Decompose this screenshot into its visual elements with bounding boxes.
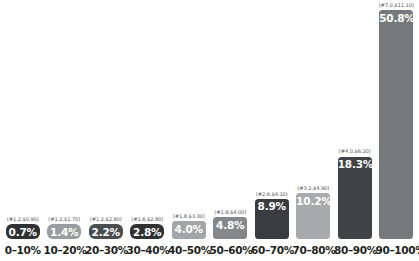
bar-value-label: 18.3%	[338, 159, 372, 170]
x-axis-tick-label: 20–30%	[85, 244, 127, 256]
bar-annotation: (#1.2,$1.70)	[48, 217, 80, 222]
bar[interactable]: 8.9%	[255, 199, 289, 239]
bar[interactable]: 18.3%	[338, 157, 372, 240]
bar-annotation: (#1.8,$4.00)	[214, 210, 246, 215]
x-axis-tick-label: 0–10%	[2, 244, 44, 256]
x-axis-tick-label: 30–40%	[127, 244, 169, 256]
bar-group[interactable]: (#1.2,$1.70) 1.4%	[44, 0, 86, 239]
bar-annotation: (#3.2,$4.90)	[297, 186, 329, 191]
bar-group[interactable]: (#4.0,$6.20) 18.3%	[334, 0, 376, 239]
bar-annotation: (#4.0,$6.20)	[339, 149, 371, 154]
bar-value-label: 1.4%	[47, 227, 81, 238]
bar-annotation: (#1.6,$2.80)	[131, 217, 163, 222]
bar-value-label: 4.8%	[213, 220, 247, 231]
bar[interactable]: 10.2%	[296, 193, 330, 239]
bar-group[interactable]: (#1.8,$3.30) 4.0%	[168, 0, 210, 239]
x-axis-tick-label: 90–100%	[376, 244, 418, 256]
bar-annotation: (#2.6,$4.10)	[256, 192, 288, 197]
x-axis-tick-label: 50–60%	[210, 244, 252, 256]
bar-annotation: (#1.8,$3.30)	[173, 214, 205, 219]
bar-group[interactable]: (#3.2,$4.90) 10.2%	[293, 0, 335, 239]
x-axis-tick-label: 60–70%	[251, 244, 293, 256]
bar[interactable]: 4.8%	[213, 217, 247, 239]
bar-chart: (#1.2,$0.90) 0.7% (#1.2,$1.70) 1.4% (#1.…	[0, 0, 419, 261]
bar-value-label: 2.8%	[130, 227, 164, 238]
bar-annotation: (#7.0,$11.10)	[379, 3, 414, 8]
bar-annotation: (#1.2,$0.90)	[7, 217, 39, 222]
x-axis-tick-labels: 0–10% 10–20% 20–30% 30–40% 40–50% 50–60%…	[0, 239, 419, 261]
bar[interactable]: 1.4%	[47, 224, 81, 239]
bar-value-label: 8.9%	[255, 201, 289, 212]
bar-value-label: 4.0%	[172, 224, 206, 235]
bar-annotation: (#1.2,$2.80)	[90, 217, 122, 222]
bar[interactable]: 0.7%	[6, 224, 40, 239]
x-axis-tick-label: 80–90%	[334, 244, 376, 256]
bar-group[interactable]: (#1.8,$4.00) 4.8%	[210, 0, 252, 239]
bar-value-label: 10.2%	[296, 196, 330, 207]
bar-group[interactable]: (#1.2,$0.90) 0.7%	[2, 0, 44, 239]
chart-plot-area: (#1.2,$0.90) 0.7% (#1.2,$1.70) 1.4% (#1.…	[0, 0, 419, 239]
x-axis-tick-label: 40–50%	[168, 244, 210, 256]
bar-value-label: 0.7%	[6, 227, 40, 238]
bar[interactable]: 4.0%	[172, 221, 206, 239]
bar-value-label: 2.2%	[89, 227, 123, 238]
bar[interactable]: 2.2%	[89, 224, 123, 239]
bar-group[interactable]: (#2.6,$4.10) 8.9%	[251, 0, 293, 239]
bar[interactable]: 50.8%	[379, 10, 413, 239]
bar-group[interactable]: (#1.2,$2.80) 2.2%	[85, 0, 127, 239]
x-axis-tick-label: 70–80%	[293, 244, 335, 256]
bar-group[interactable]: (#7.0,$11.10) 50.8%	[376, 0, 418, 239]
bar[interactable]: 2.8%	[130, 224, 164, 239]
x-axis-tick-label: 10–20%	[44, 244, 86, 256]
bar-group[interactable]: (#1.6,$2.80) 2.8%	[127, 0, 169, 239]
bar-value-label: 50.8%	[379, 13, 413, 24]
